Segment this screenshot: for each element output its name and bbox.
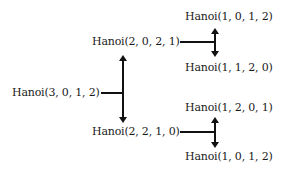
node-root: Hanoi(3, 0, 1, 2) (12, 86, 100, 100)
lower-connector (180, 120, 215, 145)
node-level2-upper: Hanoi(2, 0, 2, 1) (92, 35, 180, 49)
node-level3-4: Hanoi(1, 0, 1, 2) (185, 150, 273, 164)
node-level3-3: Hanoi(1, 2, 0, 1) (185, 101, 273, 115)
node-level3-2: Hanoi(1, 1, 2, 0) (185, 61, 273, 75)
upper-connector (180, 31, 215, 54)
root-connector (101, 58, 123, 120)
node-level3-1: Hanoi(1, 0, 1, 2) (185, 10, 273, 24)
node-level2-lower: Hanoi(2, 2, 1, 0) (92, 125, 180, 139)
